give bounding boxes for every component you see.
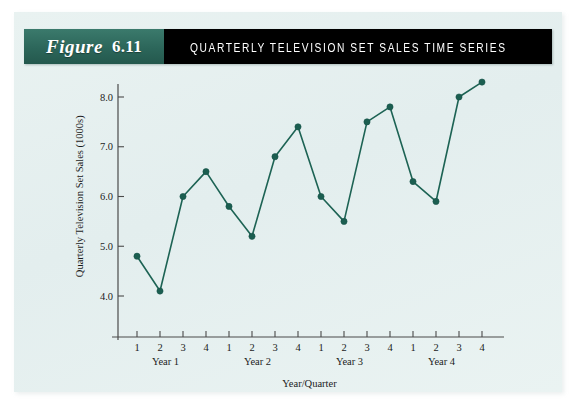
- figure-number-block: Figure 6.11: [24, 29, 164, 64]
- figure-panel: [14, 12, 562, 392]
- figure-title-block: QUARTERLY TELEVISION SET SALES TIME SERI…: [164, 29, 552, 64]
- figure-title: QUARTERLY TELEVISION SET SALES TIME SERI…: [190, 39, 507, 53]
- figure-number: 6.11: [112, 37, 142, 57]
- figure-root: Figure 6.11 QUARTERLY TELEVISION SET SAL…: [0, 0, 586, 415]
- figure-header-band: Figure 6.11 QUARTERLY TELEVISION SET SAL…: [24, 29, 552, 64]
- figure-label: Figure: [46, 36, 103, 58]
